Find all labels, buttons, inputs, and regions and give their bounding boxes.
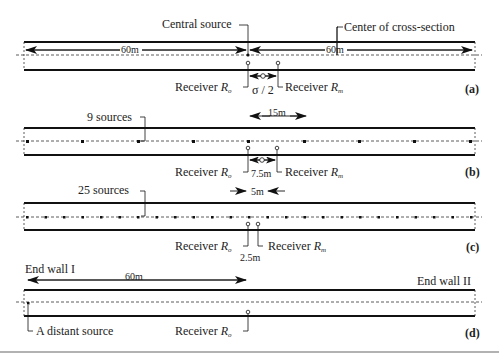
receiver-rm-label: Receiver Rm [285,165,343,183]
panel-tag-c: (c) [466,240,479,255]
distant-source-label: A distant source [36,324,113,338]
receiver-rm-label: Receiver Rm [268,239,326,257]
central-source-label: Central source [162,17,232,31]
source-spacing-label: 15m [268,106,286,120]
panel-c [16,191,482,246]
sources-count-label: 25 sources [78,183,129,197]
receiver-spacing-label: 2.5m [240,251,260,265]
panel-tag-d: (d) [465,326,480,341]
distance-label: 60m [326,43,344,57]
end-wall-2-label: End wall II [417,274,471,288]
receiver-rm-marker [276,61,280,65]
panel-tag-b: (b) [465,165,480,180]
panel-b [16,116,482,172]
receiver-spacing-label: 7.5m [251,167,271,181]
sources-9 [26,140,472,143]
distant-source-dot [27,302,30,305]
spacing-label: σ / 2 [252,83,274,97]
diagram-canvas [0,0,499,360]
leader-line [239,25,248,55]
source-dot [246,53,249,56]
sources-count-label: 9 sources [87,110,132,124]
distance-label: 60m [125,270,143,284]
end-wall-1-label: End wall I [25,262,75,276]
receiver-r0-label: Receiver Ro [175,165,231,183]
distance-label: 60m [121,43,139,57]
panel-a [16,25,482,87]
receiver-r0-label: Receiver Ro [175,80,231,98]
center-cross-section-label: Center of cross-section [344,20,455,34]
source-spacing-label: 5m [251,185,264,199]
receiver-rm-label: Receiver Rm [285,80,343,98]
panel-tag-a: (a) [465,82,479,97]
receiver-r0-label: Receiver Ro [175,324,231,342]
receiver-r0-label: Receiver Ro [175,239,231,257]
receiver-r0-marker [246,61,250,65]
